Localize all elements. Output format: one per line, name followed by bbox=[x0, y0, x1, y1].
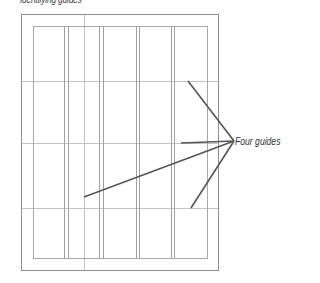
leader-line bbox=[191, 141, 234, 208]
callout-label-four-guides: Four guides bbox=[235, 135, 280, 147]
leader-line bbox=[84, 141, 234, 197]
callout-leader-lines bbox=[84, 81, 234, 208]
leader-line bbox=[188, 81, 234, 141]
column-guides bbox=[65, 26, 175, 258]
horizontal-guides bbox=[21, 82, 218, 209]
leader-line bbox=[181, 141, 234, 143]
